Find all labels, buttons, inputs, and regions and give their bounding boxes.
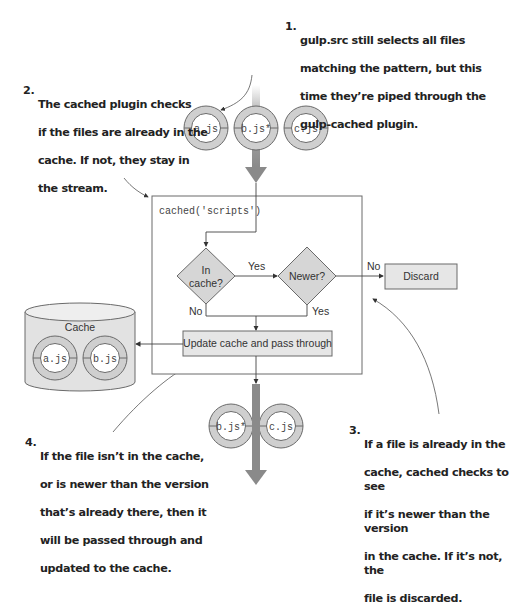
annotation-4: 4. If the file isn’t in the cache, or is… [25,436,209,590]
svg-text:cache?: cache? [189,277,223,289]
output-file-ring-b: b.js* [209,404,253,448]
update-cache-box: Update cache and pass through [183,331,332,356]
annotation-3-leader [373,299,439,414]
svg-text:c.js: c.js [269,422,293,433]
edge-label-yes: Yes [248,260,265,272]
edge-label-yes: Yes [312,305,329,317]
annotation-2: 2. The cached plugin checks if the files… [23,84,208,210]
svg-text:Update cache and pass through: Update cache and pass through [183,337,332,349]
input-file-ring-b: b.js* [234,106,278,150]
svg-text:Discard: Discard [403,270,439,282]
discard-box: Discard [385,264,457,289]
svg-text:a.js: a.js [43,354,67,365]
cache-file-ring-a: a.js [33,336,77,380]
edge-label-no: No [367,260,381,272]
svg-text:In: In [202,264,211,276]
file-label: b.js* [241,124,271,135]
annotation-1: 1. gulp.src still selects all files matc… [285,20,486,146]
svg-text:b.js*: b.js* [216,422,246,433]
edge-label-no: No [189,305,203,317]
svg-text:b.js: b.js [93,354,117,365]
cache-label: Cache [65,321,96,333]
output-stream-overlay [252,404,260,448]
cache-file-ring-b: b.js [83,336,127,380]
svg-text:Newer?: Newer? [289,270,325,282]
annotation-3: 3. If a file is already in the cache, ca… [349,424,511,606]
annotation-1-leader [221,75,252,110]
output-file-ring-c: c.js [259,404,303,448]
